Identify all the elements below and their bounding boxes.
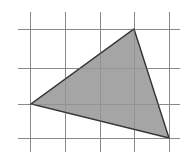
figure-container	[0, 0, 195, 163]
triangle-grid-figure	[0, 0, 195, 163]
